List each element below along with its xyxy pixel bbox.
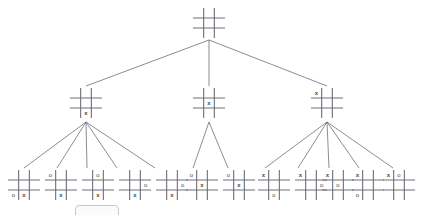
- mark-o-cell-0: o: [186, 170, 197, 180]
- board-node-x-top-left-o-bottom-center[interactable]: xo: [258, 170, 290, 200]
- board-node-x-top-left[interactable]: x: [311, 88, 343, 118]
- mark-x-cell-7: x: [167, 190, 178, 200]
- mark-o-cell-6: o: [8, 190, 19, 200]
- edge-L1-B-to-L2-B2: [209, 122, 228, 168]
- edge-L1-C-to-L2-C4: [327, 122, 359, 168]
- edge-L1-B-to-L2-B1: [193, 122, 209, 168]
- mark-x-cell-7: x: [19, 190, 30, 200]
- x-glyph: x: [207, 100, 210, 106]
- edge-L1-C-to-L2-C2: [298, 122, 327, 168]
- x-glyph: x: [237, 182, 240, 188]
- o-glyph: o: [356, 192, 359, 198]
- mark-o-cell-7: o: [269, 190, 280, 200]
- o-glyph: o: [397, 172, 400, 178]
- x-glyph: x: [22, 192, 25, 198]
- mark-x-cell-7: x: [130, 190, 141, 200]
- x-glyph: x: [84, 110, 87, 116]
- x-glyph: x: [170, 192, 173, 198]
- board-node-o-middle-right-alt-x-bottom-center[interactable]: ox: [156, 170, 188, 200]
- x-glyph: x: [133, 192, 136, 198]
- edge-root-to-L1-A: [86, 40, 209, 86]
- mark-x-cell-0: x: [295, 170, 306, 180]
- edge-L1-A-to-L2-A1: [24, 122, 86, 168]
- mark-o-cell-1: o: [394, 170, 405, 180]
- edge-L1-A-to-L2-A3: [86, 122, 87, 168]
- mark-o-cell-5: o: [140, 180, 151, 190]
- board-node-o-middle-right-x-bottom-center[interactable]: ox: [119, 170, 151, 200]
- mark-x-cell-4: x: [204, 98, 215, 108]
- o-glyph: o: [49, 172, 52, 178]
- x-glyph: x: [387, 172, 390, 178]
- board-node-x-bottom-center[interactable]: x: [70, 88, 102, 118]
- o-glyph: o: [190, 172, 193, 178]
- o-glyph: o: [272, 192, 275, 198]
- x-glyph: x: [356, 172, 359, 178]
- mark-o-cell-6: o: [352, 190, 363, 200]
- o-glyph: o: [336, 182, 339, 188]
- mark-x-cell-0: x: [383, 170, 394, 180]
- board-node-o-top-left-alt-x-center[interactable]: ox: [223, 170, 255, 200]
- mark-x-cell-7: x: [81, 108, 92, 118]
- board-grid: [193, 8, 225, 38]
- board-node-x-center[interactable]: x: [193, 88, 225, 118]
- x-glyph: x: [326, 172, 329, 178]
- mark-x-cell-0: x: [352, 170, 363, 180]
- board-node-x-top-left-o-bottom-left[interactable]: xo: [352, 170, 384, 200]
- mark-x-cell-0: x: [311, 88, 322, 98]
- mark-x-cell-4: x: [234, 180, 245, 190]
- mark-x-cell-7: x: [93, 190, 104, 200]
- mark-x-cell-7: x: [56, 190, 67, 200]
- o-glyph: o: [181, 182, 184, 188]
- board-node-o-top-left-x-center[interactable]: ox: [186, 170, 218, 200]
- mark-o-cell-0: o: [45, 170, 56, 180]
- game-tree-diagram: xxxoxoxoxoxoxoxoxxoxoxoxoxo: [0, 0, 421, 215]
- o-glyph: o: [144, 182, 147, 188]
- mark-x-cell-4: x: [197, 180, 208, 190]
- x-glyph: x: [315, 90, 318, 96]
- mark-o-cell-0: o: [223, 170, 234, 180]
- board-node-root-empty-board[interactable]: [193, 8, 225, 38]
- x-glyph: x: [96, 192, 99, 198]
- mark-o-cell-1: o: [93, 170, 104, 180]
- board-node-x-top-left-o-top-center[interactable]: xo: [383, 170, 415, 200]
- edge-L1-A-to-L2-A5: [86, 122, 155, 168]
- x-glyph: x: [262, 172, 265, 178]
- bottom-partial-shape: [75, 205, 119, 215]
- board-node-o-top-center-x-bottom-center[interactable]: ox: [82, 170, 114, 200]
- edge-L1-C-to-L2-C1: [265, 122, 327, 168]
- o-glyph: o: [12, 192, 15, 198]
- x-glyph: x: [200, 182, 203, 188]
- o-glyph: o: [96, 172, 99, 178]
- board-node-o-top-left-x-bottom-center[interactable]: ox: [45, 170, 77, 200]
- edge-L1-A-to-L2-A2: [57, 122, 86, 168]
- board-node-o-bottom-left-x-bottom-center[interactable]: ox: [8, 170, 40, 200]
- mark-x-cell-0: x: [322, 170, 333, 180]
- x-glyph: x: [299, 172, 302, 178]
- edge-L1-A-to-L2-A4: [86, 122, 117, 168]
- edge-L1-C-to-L2-C3: [327, 122, 329, 168]
- o-glyph: o: [227, 172, 230, 178]
- mark-x-cell-0: x: [258, 170, 269, 180]
- x-glyph: x: [59, 192, 62, 198]
- edge-root-to-L1-C: [209, 40, 327, 86]
- edge-L1-C-to-L2-C5: [327, 122, 393, 168]
- mark-o-cell-4: o: [333, 180, 344, 190]
- board-node-x-top-left-o-center[interactable]: xo: [322, 170, 354, 200]
